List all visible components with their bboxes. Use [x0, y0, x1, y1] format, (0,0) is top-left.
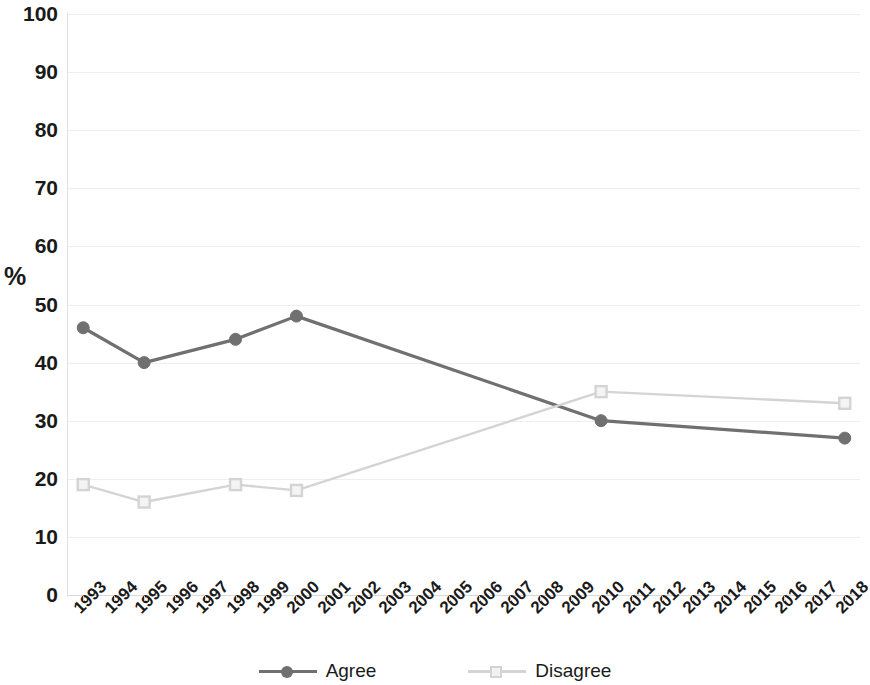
legend-swatch-agree	[259, 663, 317, 679]
data-point-disagree-1998[interactable]	[230, 479, 241, 490]
data-point-agree-1998[interactable]	[230, 333, 242, 345]
data-point-agree-1993[interactable]	[77, 322, 89, 334]
series-line-disagree	[83, 392, 845, 502]
legend-square-marker-icon	[490, 666, 502, 678]
data-point-disagree-2010[interactable]	[596, 386, 607, 397]
series-layer	[68, 14, 860, 595]
y-axis-tick-label: 90	[2, 61, 58, 82]
legend-label: Agree	[326, 660, 377, 682]
data-point-disagree-1995[interactable]	[139, 497, 150, 508]
x-axis-tick-mark	[692, 596, 693, 601]
x-axis-tick-mark	[327, 596, 328, 601]
x-axis-tick-mark	[449, 596, 450, 601]
data-point-agree-2000[interactable]	[290, 310, 302, 322]
y-axis-tick-label: 60	[2, 235, 58, 256]
y-axis-tick-labels: 0102030405060708090100	[0, 0, 58, 610]
line-chart: % 0102030405060708090100 199319941995199…	[0, 0, 870, 685]
x-axis-tick-mark	[814, 596, 815, 601]
x-axis-tick-mark	[83, 596, 84, 601]
x-axis-tick-mark	[540, 596, 541, 601]
x-axis-tick-mark	[236, 596, 237, 601]
x-axis-tick-mark	[175, 596, 176, 601]
y-axis-tick-label: 30	[2, 410, 58, 431]
series-line-agree	[83, 316, 845, 438]
legend-label: Disagree	[535, 660, 611, 682]
x-axis-tick-mark	[479, 596, 480, 601]
chart-legend: AgreeDisagree	[0, 657, 870, 685]
data-point-agree-2018[interactable]	[839, 432, 851, 444]
y-axis-tick-label: 20	[2, 468, 58, 489]
x-axis-tick-mark	[144, 596, 145, 601]
x-axis-tick-mark	[418, 596, 419, 601]
y-axis-tick-label: 50	[2, 294, 58, 315]
legend-circle-marker-icon	[281, 666, 293, 678]
data-point-disagree-1993[interactable]	[78, 479, 89, 490]
plot-area	[68, 14, 860, 595]
x-axis-tick-mark	[266, 596, 267, 601]
x-axis-tick-mark	[357, 596, 358, 601]
x-axis-tick-labels: 1993199419951996199719981999200020012002…	[0, 600, 870, 655]
y-axis-tick-label: 70	[2, 177, 58, 198]
data-point-agree-2010[interactable]	[595, 415, 607, 427]
y-axis-tick-label: 10	[2, 526, 58, 547]
x-axis-tick-mark	[510, 596, 511, 601]
x-axis-tick-mark	[784, 596, 785, 601]
x-axis-tick-mark	[388, 596, 389, 601]
data-point-disagree-2000[interactable]	[291, 485, 302, 496]
legend-item-disagree[interactable]: Disagree	[468, 660, 611, 682]
legend-item-agree[interactable]: Agree	[259, 660, 377, 682]
x-axis-tick-mark	[571, 596, 572, 601]
x-axis-tick-mark	[662, 596, 663, 601]
x-axis-tick-mark	[723, 596, 724, 601]
x-axis-tick-mark	[205, 596, 206, 601]
x-axis-tick-mark	[296, 596, 297, 601]
y-axis-tick-label: 80	[2, 119, 58, 140]
y-axis-tick-label: 40	[2, 352, 58, 373]
y-axis-tick-label: 100	[2, 3, 58, 24]
x-axis-tick-mark	[114, 596, 115, 601]
data-point-agree-1995[interactable]	[138, 357, 150, 369]
legend-swatch-disagree	[468, 663, 526, 679]
x-axis-tick-mark	[753, 596, 754, 601]
x-axis-tick-mark	[632, 596, 633, 601]
data-point-disagree-2018[interactable]	[839, 398, 850, 409]
x-axis-tick-mark	[845, 596, 846, 601]
x-axis-tick-mark	[601, 596, 602, 601]
